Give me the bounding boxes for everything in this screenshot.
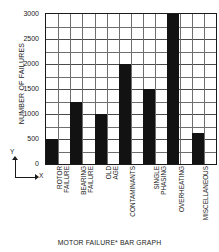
y-axis-tick-label: 2500 bbox=[0, 35, 42, 42]
y-axis-tick-label: 3000 bbox=[0, 10, 42, 17]
bar bbox=[143, 89, 155, 164]
bar bbox=[95, 114, 107, 164]
motor-failure-bar-graph-figure: NUMBER OF FAILURES 050010001500200025003… bbox=[0, 0, 219, 252]
y-axis-tick-label: 500 bbox=[0, 135, 42, 142]
bar bbox=[167, 14, 179, 164]
plot-area bbox=[45, 13, 217, 165]
x-axis-tick-labels: ROTOR FAILUREBEARING FAILUREOLD AGECONTA… bbox=[45, 166, 217, 234]
x-axis-tick-label: OVERHEATING bbox=[178, 166, 190, 234]
y-axis-tick-label: 1500 bbox=[0, 85, 42, 92]
bar bbox=[119, 64, 131, 164]
x-axis-tick-label: MISCELLANEOUS bbox=[202, 166, 214, 234]
x-axis-tick-label: OLD AGE bbox=[105, 166, 117, 234]
x-axis-tick-label: ROTOR FAILURE bbox=[56, 166, 68, 234]
y-axis-tick-label: 2000 bbox=[0, 60, 42, 67]
x-axis-arrow-stem bbox=[15, 177, 36, 178]
x-axis-arrow-head-icon bbox=[35, 174, 39, 180]
figure-caption: MOTOR FAILURE* BAR GRAPH bbox=[0, 239, 219, 246]
y-axis-tick-labels: 050010001500200025003000 bbox=[0, 0, 42, 252]
y-axis-arrow-head-icon bbox=[12, 156, 18, 160]
y-axis-arrow-stem bbox=[15, 159, 16, 178]
bar bbox=[70, 102, 82, 165]
y-axis-tick-label: 1000 bbox=[0, 110, 42, 117]
axis-orientation-key: Y X bbox=[8, 152, 48, 186]
bars bbox=[46, 14, 216, 164]
x-axis-tick-label: CONTAMINANTS bbox=[129, 166, 141, 234]
bar bbox=[192, 133, 204, 164]
x-axis-tick-label: BEARING FAILURE bbox=[80, 166, 92, 234]
axis-key-x-label: X bbox=[39, 172, 43, 179]
x-axis-tick-label: SINGLE PHASING bbox=[153, 166, 165, 234]
axis-key-y-label: Y bbox=[10, 148, 14, 155]
